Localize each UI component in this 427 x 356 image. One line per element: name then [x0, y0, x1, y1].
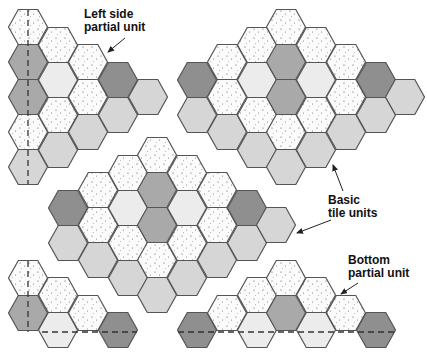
- basic-arrow-left: [297, 220, 331, 233]
- label-line: partial unit: [84, 21, 145, 34]
- top-right-basic-unit: [178, 10, 425, 185]
- bottom-arrow: [341, 283, 358, 294]
- left-side-partial-unit-label: Left side partial unit: [84, 8, 145, 34]
- basic-tile-units-label: Basic tile units: [328, 194, 377, 220]
- left-side-arrow: [108, 38, 125, 52]
- basic-arrow-up: [333, 165, 343, 191]
- label-line: tile units: [328, 207, 377, 220]
- bottom-partial-unit-label: Bottom partial unit: [348, 254, 409, 280]
- hex-tile-diagram: Left side partial unit Basic tile units …: [0, 0, 427, 356]
- label-line: partial unit: [348, 267, 409, 280]
- hex-tiling-graphic: [0, 0, 427, 356]
